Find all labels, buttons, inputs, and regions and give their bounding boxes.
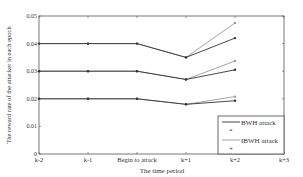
- x-axis-label: The time period: [140, 167, 185, 175]
- data-point: [38, 98, 40, 100]
- data-point: [185, 56, 187, 58]
- y-tick-label: 0.02: [27, 96, 38, 102]
- y-tick-label: 0.03: [27, 68, 38, 74]
- data-point: [234, 37, 236, 39]
- data-point: [38, 70, 40, 72]
- legend: BWH attack * IBWH attack +: [218, 116, 284, 154]
- data-point: [234, 60, 236, 62]
- data-point: [136, 98, 138, 100]
- series-line: [39, 23, 235, 58]
- data-point: [38, 42, 40, 44]
- legend-bwh-marker-icon: *: [229, 127, 233, 135]
- legend-ibwh-label: IBWH attack: [241, 137, 279, 145]
- data-point: [185, 103, 187, 105]
- x-tick-label: k+2: [230, 156, 240, 163]
- chart-canvas: 00.010.020.030.040.05k-2k-1Begin to atta…: [0, 0, 303, 177]
- data-point: [234, 22, 236, 24]
- data-point: [234, 69, 236, 71]
- legend-bwh-label: BWH attack: [241, 119, 276, 127]
- y-tick-label: 0.05: [27, 13, 38, 19]
- data-point: [136, 70, 138, 72]
- legend-ibwh-marker-icon: +: [229, 145, 233, 153]
- y-tick-label: 0.04: [27, 41, 38, 47]
- series-line: [39, 38, 235, 57]
- x-tick-label: k-1: [84, 156, 93, 163]
- y-axis-label: The reward rate of the attacker in each …: [5, 26, 12, 144]
- data-point: [136, 42, 138, 44]
- x-tick-label: k+3: [279, 156, 289, 163]
- data-point: [234, 95, 236, 97]
- x-tick-label: k+1: [181, 156, 191, 163]
- line-chart: 00.010.020.030.040.05k-2k-1Begin to atta…: [0, 0, 303, 177]
- data-point: [234, 100, 236, 102]
- series-lines: [38, 22, 236, 106]
- y-tick-label: 0.01: [27, 123, 38, 129]
- data-point: [87, 42, 89, 44]
- data-point: [87, 70, 89, 72]
- data-point: [87, 98, 89, 100]
- x-tick-label: k-2: [35, 156, 44, 163]
- data-point: [185, 78, 187, 80]
- x-tick-label: Begin to attack: [117, 156, 157, 163]
